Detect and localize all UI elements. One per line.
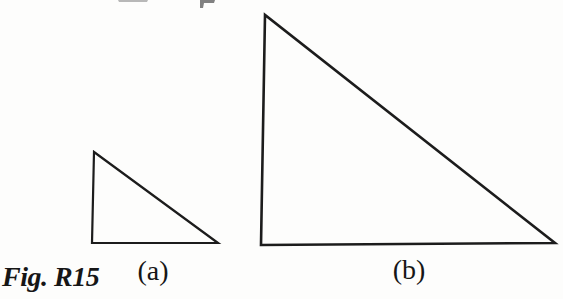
scan-artifact — [118, 0, 148, 2]
small-right-triangle — [92, 152, 218, 243]
figure-page: Fig. R15 (a) (b) — [0, 0, 563, 299]
figure-caption: Fig. R15 — [2, 263, 99, 291]
triangles-figure — [0, 0, 563, 299]
large-right-triangle — [261, 15, 555, 245]
scan-artifact — [200, 0, 215, 8]
triangle-b-label: (b) — [387, 256, 431, 284]
triangle-a-label: (a) — [131, 257, 175, 285]
